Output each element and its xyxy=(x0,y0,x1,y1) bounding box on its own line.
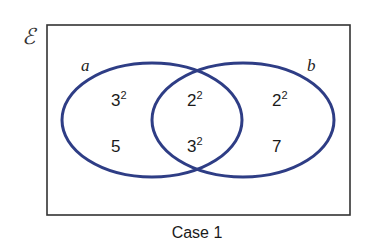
diagram-caption: Case 1 xyxy=(172,224,223,241)
b-only-element-2: 7 xyxy=(272,137,281,156)
intersection-element-2: 32 xyxy=(187,135,203,156)
set-b-label: b xyxy=(307,56,316,75)
venn-diagram: ℰ a b 32 5 22 32 22 7 Case 1 xyxy=(0,0,365,246)
a-only-element-2: 5 xyxy=(111,137,120,156)
universe-frame xyxy=(47,25,350,215)
b-only-element-1: 22 xyxy=(272,89,288,110)
a-only-element-1: 32 xyxy=(111,89,127,110)
set-a-label: a xyxy=(81,56,90,75)
universe-symbol: ℰ xyxy=(22,24,38,49)
intersection-element-1: 22 xyxy=(187,89,203,110)
